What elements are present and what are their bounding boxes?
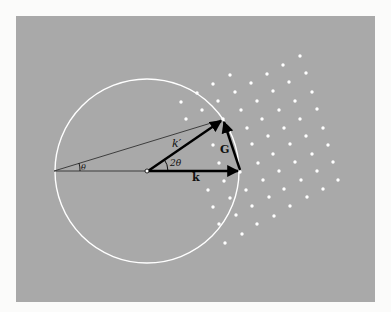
lattice-point: [298, 54, 301, 57]
lattice-point: [282, 126, 285, 129]
lattice-point: [305, 195, 308, 198]
lattice-point: [260, 117, 263, 120]
k-label: k: [192, 171, 200, 184]
lattice-point: [211, 143, 214, 146]
lattice-point: [304, 134, 307, 137]
lattice-point: [255, 222, 258, 225]
lattice-point: [256, 161, 259, 164]
lattice-point: [228, 196, 231, 199]
lattice-point: [331, 160, 334, 163]
lattice-point: [265, 72, 268, 75]
lattice-point: [261, 178, 264, 181]
lattice-point: [267, 195, 270, 198]
lattice-point: [315, 107, 318, 110]
theta-arc: [79, 163, 80, 171]
lattice-point: [184, 117, 187, 120]
lattice-point: [336, 178, 339, 181]
lattice-point: [234, 213, 237, 216]
lattice-point: [304, 71, 307, 74]
lattice-point: [240, 232, 243, 235]
lattice-point: [293, 160, 296, 163]
g-label: G: [220, 143, 229, 156]
lattice-point: [326, 143, 329, 146]
ewald-diagram: k′ k G 2θ θ: [0, 0, 391, 312]
lattice-point: [211, 205, 214, 208]
lattice-point: [315, 169, 318, 172]
lattice-point: [216, 99, 219, 102]
lattice-point: [228, 73, 231, 76]
k-prime-label: k′: [172, 137, 182, 150]
lattice-point: [321, 187, 324, 190]
theta-label: θ: [81, 163, 86, 172]
two-theta-label: 2θ: [169, 158, 182, 168]
origin-point: [145, 169, 149, 173]
lattice-point: [200, 108, 203, 111]
lattice-point: [310, 152, 313, 155]
lattice-point: [211, 82, 214, 85]
lattice-point: [277, 169, 280, 172]
lattice-point: [293, 99, 296, 102]
lattice-point: [299, 178, 302, 181]
lattice-point: [239, 108, 242, 111]
lattice-point: [217, 161, 220, 164]
lattice-point: [321, 126, 324, 129]
lattice-point: [250, 142, 253, 145]
lattice-point: [272, 214, 275, 217]
lattice-point: [266, 134, 269, 137]
lattice-point: [195, 91, 198, 94]
lattice-point: [245, 126, 248, 129]
lattice-point: [277, 108, 280, 111]
lattice-point: [281, 63, 284, 66]
lattice-point: [288, 204, 291, 207]
lattice-point: [255, 99, 258, 102]
k-prime-vector: [148, 121, 221, 171]
lattice-point: [282, 187, 285, 190]
lattice-point: [221, 117, 224, 120]
lattice-point: [298, 117, 301, 120]
lattice-point: [287, 80, 290, 83]
lattice-point: [223, 241, 226, 244]
lattice-point: [250, 204, 253, 207]
lattice-point: [206, 188, 209, 191]
lattice-point: [271, 152, 274, 155]
reciprocal-lattice-points: [179, 54, 339, 244]
lattice-point: [310, 90, 313, 93]
lattice-point: [271, 89, 274, 92]
lattice-point: [244, 188, 247, 191]
lattice-point: [217, 222, 220, 225]
lattice-point: [179, 100, 182, 103]
lattice-point: [249, 81, 252, 84]
lattice-point: [222, 179, 225, 182]
lattice-point: [238, 170, 241, 173]
lattice-point: [288, 142, 291, 145]
lattice-point: [233, 90, 236, 93]
